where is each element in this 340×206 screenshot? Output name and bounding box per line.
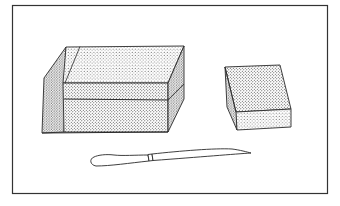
large-block-top-face xyxy=(63,46,184,83)
small-block-front-face xyxy=(236,109,291,130)
small-block xyxy=(225,65,291,130)
small-block-top-face xyxy=(225,65,291,112)
large-block xyxy=(42,46,184,133)
large-block-front-face xyxy=(63,83,168,132)
illustration xyxy=(0,0,340,206)
